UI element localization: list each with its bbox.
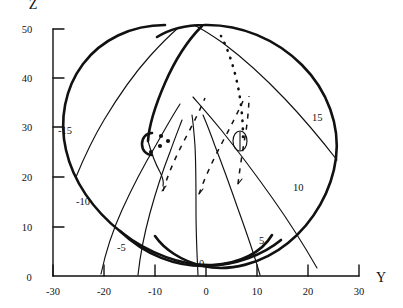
y-tick-label-30: 30 bbox=[22, 122, 33, 133]
outline-group bbox=[63, 25, 337, 268]
contour-label-0: 0 bbox=[199, 258, 204, 269]
x-tick-label-minus10: -10 bbox=[148, 286, 162, 297]
dot-cluster-point-1 bbox=[159, 134, 163, 138]
y-tick-label-10: 10 bbox=[22, 222, 33, 233]
contour-label-minus5: -5 bbox=[117, 242, 126, 253]
x-tick-label-0: 0 bbox=[203, 286, 208, 297]
contour-plot-svg: 50 40 30 20 10 0 -30 -20 -10 0 10 20 30 … bbox=[0, 0, 403, 308]
x-tick-label-30: 30 bbox=[354, 286, 365, 297]
x-tick-label-20: 20 bbox=[303, 286, 314, 297]
x-tick-labels: -30 -20 -10 0 10 20 30 bbox=[46, 286, 364, 297]
contour-label-10: 10 bbox=[293, 182, 304, 193]
contour-label-minus15: -15 bbox=[58, 125, 72, 136]
dot-cluster-point-4 bbox=[149, 150, 153, 154]
y-tick-labels: 50 40 30 20 10 0 bbox=[22, 24, 33, 283]
y-axis-title: Z bbox=[29, 0, 38, 12]
y-tick-label-50: 50 bbox=[22, 24, 33, 35]
dotted-curve-group bbox=[221, 36, 243, 137]
contour-line-minus5 bbox=[138, 120, 182, 275]
dot-cluster-point-2 bbox=[166, 139, 170, 143]
contour-line-15 bbox=[194, 25, 337, 160]
figure-root: 50 40 30 20 10 0 -30 -20 -10 0 10 20 30 … bbox=[0, 0, 403, 308]
dot-cluster-point-3 bbox=[158, 144, 162, 148]
x-axis-title: Y bbox=[376, 270, 386, 285]
contour-label-15: 15 bbox=[312, 112, 323, 123]
contour-line-0 bbox=[192, 115, 198, 275]
contour-label-minus10: -10 bbox=[76, 196, 90, 207]
y-tick-label-40: 40 bbox=[22, 73, 33, 84]
x-tick-label-minus20: -20 bbox=[97, 286, 111, 297]
inner-limb-arc bbox=[148, 26, 202, 141]
outline-circle-left bbox=[63, 25, 272, 265]
dashed-contour-left bbox=[163, 98, 205, 191]
y-tick-label-0: 0 bbox=[26, 272, 31, 283]
x-tick-label-minus30: -30 bbox=[46, 286, 60, 297]
y-tick-label-20: 20 bbox=[22, 172, 33, 183]
y-axis-title-group: Z bbox=[29, 0, 38, 12]
contour-line-minus15 bbox=[76, 28, 178, 177]
axis-group bbox=[53, 29, 359, 276]
dashed-contour-mid bbox=[199, 101, 243, 194]
dotted-boundary-curve bbox=[221, 36, 243, 137]
x-tick-label-10: 10 bbox=[252, 286, 263, 297]
contour-label-5: 5 bbox=[259, 235, 264, 246]
contour-line-5 bbox=[203, 115, 260, 275]
